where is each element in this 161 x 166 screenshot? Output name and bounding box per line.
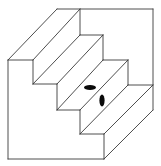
staircase-drawing <box>0 0 161 166</box>
diagonal-3 <box>33 35 80 84</box>
diagonal-7 <box>80 85 128 134</box>
diagonal-9 <box>104 110 153 159</box>
diagonal-8 <box>104 85 153 134</box>
diagonal-5 <box>57 60 103 110</box>
diagonal-4 <box>57 35 103 84</box>
diagonal-2 <box>33 9 80 60</box>
ellipse-vertical-marker <box>99 95 104 107</box>
diagonal-1 <box>8 9 57 60</box>
staircase-figure: Schröder staircase with two ellipses <box>0 0 161 166</box>
ellipse-horizontal-marker <box>84 85 96 90</box>
